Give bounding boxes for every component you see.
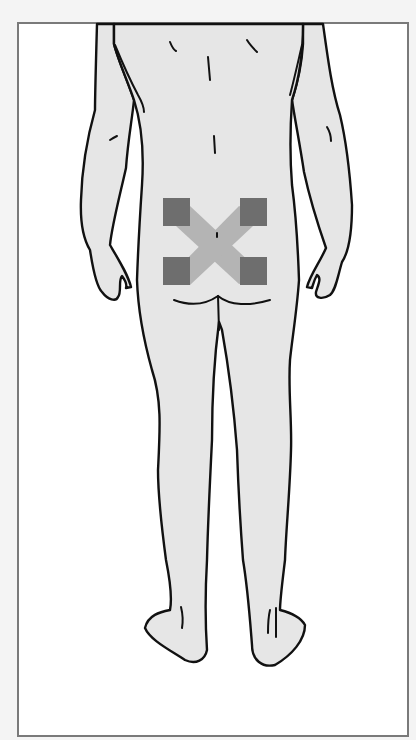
electrode-pad-lower-left: [163, 257, 190, 285]
electrode-pad-upper-right: [240, 198, 267, 226]
electrode-pad-lower-right: [240, 257, 267, 285]
electrode-pad-upper-left: [163, 198, 190, 226]
body-outline: [81, 24, 352, 666]
body-diagram: [0, 0, 416, 740]
